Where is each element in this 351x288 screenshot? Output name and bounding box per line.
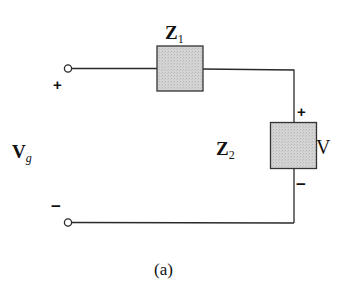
label-z2-sub: 2 (229, 148, 235, 162)
label-z2: Z2 (216, 139, 235, 161)
wire-bottom (72, 223, 294, 224)
wire-top-right (203, 69, 294, 70)
output-plus-sign: + (297, 104, 306, 119)
terminal-positive (64, 65, 71, 72)
impedance-z2-box (271, 123, 317, 169)
terminal-negative (64, 219, 71, 226)
caption: (a) (154, 261, 173, 278)
label-z1: Z1 (165, 23, 184, 45)
label-z2-main: Z (216, 138, 229, 159)
label-vg: Vg (12, 142, 32, 164)
output-minus-sign: − (296, 176, 306, 193)
label-vg-sub: g (26, 151, 32, 165)
label-z1-main: Z (165, 22, 178, 43)
label-vg-main: V (12, 141, 26, 162)
label-z1-sub: 1 (178, 32, 184, 46)
terminal-plus-sign: + (53, 77, 62, 92)
label-output-v: V (316, 137, 330, 157)
impedance-z1-box (157, 46, 203, 91)
terminal-minus-sign: − (51, 198, 61, 215)
